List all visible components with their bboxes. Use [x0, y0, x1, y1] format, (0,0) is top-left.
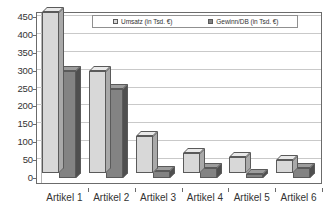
y-axis-tick-label: 100 — [3, 137, 33, 147]
bar-chart: 050100150200250300350400450 Artikel 1Art… — [0, 0, 331, 217]
legend-swatch-icon-gewinn — [208, 19, 213, 24]
bar-umsatz[interactable] — [276, 160, 293, 173]
legend-label-gewinn: Gewinn/DB (in Tsd. €) — [216, 18, 278, 25]
bar-umsatz[interactable] — [89, 71, 106, 173]
bar-group — [270, 6, 317, 178]
bar-face-front — [153, 171, 170, 178]
legend-swatch-icon-umsatz — [113, 19, 118, 24]
y-axis-tick-label: 0 — [3, 173, 33, 183]
bar-face-front — [42, 12, 59, 173]
bar-face-front — [246, 174, 263, 178]
y-axis-tick-label: 250 — [3, 84, 33, 94]
bar-face-front — [276, 160, 293, 173]
legend-label-umsatz: Umsatz (in Tsd. €) — [121, 18, 172, 25]
y-axis-tick-label: 350 — [3, 48, 33, 58]
bar-group — [36, 6, 83, 178]
bar-group — [83, 6, 130, 178]
bars-layer — [36, 12, 322, 184]
bar-face-side — [123, 84, 128, 178]
y-axis-tick-label: 450 — [3, 12, 33, 22]
x-axis-tick-mark — [322, 188, 323, 192]
y-axis: 050100150200250300350400450 — [0, 0, 33, 196]
bar-gewinn[interactable] — [246, 174, 263, 178]
x-axis-tick-label: Artikel 5 — [228, 192, 275, 203]
x-axis-tick-label: Artikel 2 — [88, 192, 135, 203]
bar-umsatz[interactable] — [42, 12, 59, 173]
bar-gewinn[interactable] — [153, 171, 170, 178]
bar-face-front — [229, 157, 246, 173]
bar-face-side — [76, 66, 81, 178]
y-axis-tick-label: 200 — [3, 101, 33, 111]
y-axis-tick-label: 400 — [3, 30, 33, 40]
bar-group — [223, 6, 270, 178]
bar-umsatz[interactable] — [229, 157, 246, 173]
y-axis-tick-label: 50 — [3, 155, 33, 165]
x-axis-tick-label: Artikel 1 — [41, 192, 88, 203]
bar-group — [177, 6, 224, 178]
bar-group — [130, 6, 177, 178]
x-axis-tick-label: Artikel 4 — [182, 192, 229, 203]
bar-face-front — [136, 136, 153, 173]
y-axis-tick-label: 150 — [3, 119, 33, 129]
bar-face-front — [183, 153, 200, 173]
y-axis-tick-label: 300 — [3, 66, 33, 76]
bar-face-side — [59, 7, 64, 173]
bar-face-side — [106, 66, 111, 173]
x-axis-tick-label: Artikel 6 — [275, 192, 322, 203]
x-axis-tick-label: Artikel 3 — [135, 192, 182, 203]
bar-umsatz[interactable] — [136, 136, 153, 173]
chart-legend: Umsatz (in Tsd. €) Gewinn/DB (in Tsd. €) — [92, 15, 298, 28]
bar-umsatz[interactable] — [183, 153, 200, 173]
legend-item-umsatz[interactable]: Umsatz (in Tsd. €) — [113, 18, 172, 25]
x-axis: Artikel 1Artikel 2Artikel 3Artikel 4Arti… — [36, 188, 322, 208]
legend-item-gewinn[interactable]: Gewinn/DB (in Tsd. €) — [208, 18, 278, 25]
bar-face-side — [153, 131, 158, 173]
bar-face-front — [89, 71, 106, 173]
